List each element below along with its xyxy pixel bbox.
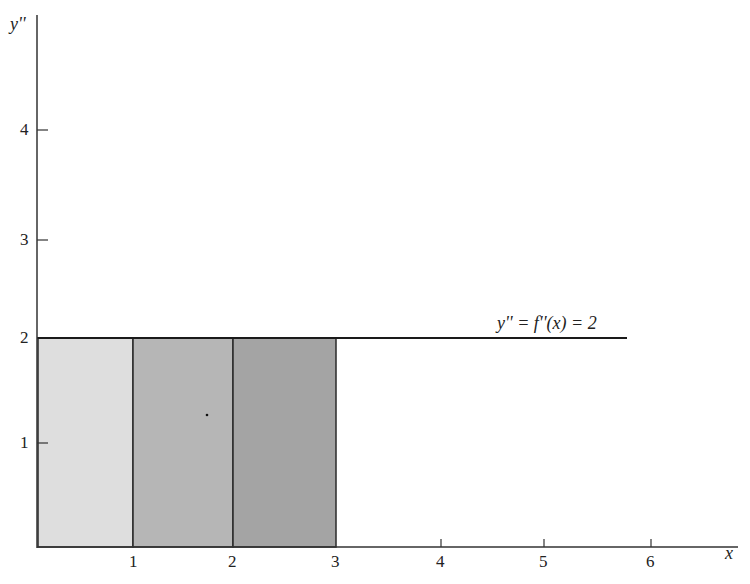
chart-canvas	[0, 0, 750, 584]
y-tick-label-1: 1	[20, 433, 29, 453]
x-tick-label-2: 2	[228, 552, 237, 572]
bar-0-1	[38, 338, 133, 547]
y-tick-label-2: 2	[20, 328, 29, 348]
bars	[38, 338, 336, 547]
speck-dot	[206, 414, 209, 417]
x-ticks	[441, 539, 651, 547]
x-tick-label-4: 4	[436, 552, 445, 572]
x-tick-label-5: 5	[539, 552, 548, 572]
y-axis-label: y''	[10, 14, 26, 35]
equation-label: y'' = f''(x) = 2	[497, 313, 597, 334]
bar-1-2	[133, 338, 233, 547]
y-tick-label-4: 4	[20, 120, 29, 140]
x-axis-label: x	[725, 543, 733, 564]
y-tick-label-3: 3	[20, 230, 29, 250]
x-tick-label-6: 6	[646, 552, 655, 572]
x-tick-label-3: 3	[331, 552, 340, 572]
x-tick-label-1: 1	[129, 552, 138, 572]
bar-2-3	[233, 338, 336, 547]
